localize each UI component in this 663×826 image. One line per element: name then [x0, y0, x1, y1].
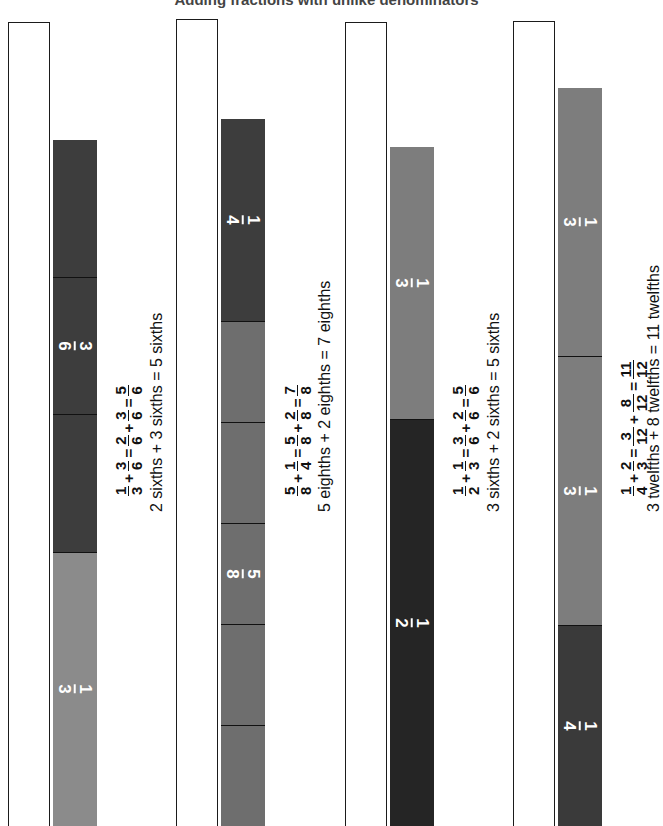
equation-numerator: 7	[282, 385, 297, 395]
equation-numerator: 2	[113, 435, 128, 445]
fraction-bar: 3613	[53, 140, 97, 826]
equation-numerator: 2	[450, 410, 465, 420]
fraction-numerator: 1	[77, 685, 94, 694]
whole-unit-box	[513, 21, 555, 826]
fraction-segment	[221, 624, 265, 725]
equation-numerator: 5	[113, 385, 128, 395]
equation-denominator: 8	[297, 485, 313, 495]
equation-fraction: 28	[282, 410, 314, 420]
equation-denominator: 6	[128, 410, 144, 420]
fraction-numerator: 1	[414, 618, 431, 627]
segment-fraction-label: 12	[393, 618, 431, 627]
equation-fraction: 13	[113, 485, 145, 495]
equation-operator: +	[457, 423, 474, 432]
fraction-numerator: 1	[582, 486, 599, 495]
equation-denominator: 6	[128, 435, 144, 445]
equation-denominator: 8	[297, 410, 313, 420]
equation-denominator: 6	[128, 460, 144, 470]
segment-fraction-label: 13	[561, 486, 599, 495]
equation-fraction: 58	[282, 435, 314, 445]
equation-numerator: 8	[618, 397, 633, 407]
equation: 58+14=58+28=78	[282, 385, 314, 496]
fraction-segment: 13	[390, 147, 434, 419]
segment-fraction-label: 14	[224, 215, 262, 224]
equation-fraction: 78	[282, 385, 314, 395]
page-title-clipped: Adding fractions with unlike denominator…	[0, 0, 653, 10]
fraction-bar: 1458	[221, 119, 265, 826]
equation-fraction: 13	[450, 460, 482, 470]
page-title: Adding fractions with unlike denominator…	[174, 0, 478, 8]
segment-fraction-label: 58	[224, 569, 262, 578]
equation-operator: +	[120, 473, 137, 482]
equation-numerator: 5	[282, 435, 297, 445]
fraction-segment: 14	[558, 625, 602, 826]
equation-numerator: 3	[113, 460, 128, 470]
equation-text: 12+13=36+26=56	[449, 385, 482, 496]
equation-operator: =	[625, 381, 642, 390]
fraction-segment: 13	[53, 552, 97, 826]
fraction-numerator: 5	[245, 569, 262, 578]
whole-unit-box	[8, 22, 50, 826]
fraction-numerator: 1	[245, 215, 262, 224]
equation-operator: +	[625, 415, 642, 424]
equation-numerator: 3	[113, 410, 128, 420]
equation-fraction: 58	[282, 485, 314, 495]
equation-denominator: 8	[297, 435, 313, 445]
segment-fraction-label: 13	[561, 217, 599, 226]
fraction-bar: 1312	[390, 147, 434, 826]
equation-operator: =	[120, 398, 137, 407]
equation-denominator: 6	[465, 410, 481, 420]
equation-fraction: 36	[450, 435, 482, 445]
equation-operator: +	[289, 473, 306, 482]
equation-denominator: 6	[465, 435, 481, 445]
equation: 13+36=26+36=56	[113, 385, 145, 496]
equation-numerator: 3	[618, 431, 633, 441]
equation-numerator: 1	[450, 460, 465, 470]
equation-denominator: 2	[465, 485, 481, 495]
fraction-segment: 36	[53, 277, 97, 414]
fraction-numerator: 1	[582, 721, 599, 730]
equation-numerator: 2	[282, 410, 297, 420]
segment-fraction-label: 13	[393, 278, 431, 287]
equation-operator: =	[289, 448, 306, 457]
words-text: 3 sixths + 2 sixths = 5 sixths	[485, 313, 503, 512]
equation-operator: =	[289, 398, 306, 407]
fraction-denominator: 4	[561, 721, 581, 730]
equation-denominator: 6	[128, 385, 144, 395]
fraction-denominator: 3	[561, 217, 581, 226]
equation-numerator: 1	[450, 485, 465, 495]
equation-denominator: 3	[465, 460, 481, 470]
equation: 12+13=36+26=56	[450, 385, 482, 496]
equation-numerator: 11	[618, 360, 633, 378]
equation-fraction: 56	[450, 385, 482, 395]
fraction-segment: 58	[221, 523, 265, 624]
equation-numerator: 1	[282, 460, 297, 470]
equation-operator: +	[457, 473, 474, 482]
fraction-segment: 12	[390, 419, 434, 826]
fraction-segment	[221, 725, 265, 826]
equation-numerator: 5	[282, 485, 297, 495]
fraction-denominator: 6	[56, 342, 76, 351]
segment-fraction-label: 14	[561, 721, 599, 730]
equation-operator: +	[120, 423, 137, 432]
fraction-segment: 14	[221, 119, 265, 321]
equation-numerator: 2	[618, 460, 633, 470]
equation-text: 13+36=26+36=56	[112, 385, 145, 496]
segment-fraction-label: 36	[56, 342, 94, 351]
equation-fraction: 12	[450, 485, 482, 495]
fraction-denominator: 3	[393, 278, 413, 287]
equation-numerator: 5	[450, 385, 465, 395]
words-text: 5 eighths + 2 eighths = 7 eighths	[316, 281, 334, 512]
equation-operator: +	[625, 473, 642, 482]
equation-operator: +	[289, 423, 306, 432]
words-text: 3 twelfths + 8 twelfths = 11 twelfths	[645, 265, 663, 512]
equation-operator: =	[120, 448, 137, 457]
equation-denominator: 8	[297, 385, 313, 395]
fraction-segment	[221, 321, 265, 422]
words-text: 2 sixths + 3 sixths = 5 sixths	[148, 313, 166, 512]
segment-fraction-label: 13	[56, 685, 94, 694]
equation-text: 58+14=58+28=78	[281, 385, 314, 496]
equation-fraction: 26	[450, 410, 482, 420]
fraction-denominator: 4	[224, 215, 244, 224]
fraction-bar: 131314	[558, 88, 602, 826]
